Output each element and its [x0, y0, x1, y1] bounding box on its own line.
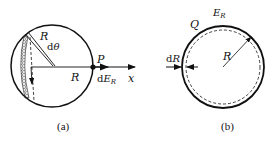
- label-dtheta: dθ: [47, 41, 59, 52]
- diagram-canvas: R dθ R P dER x (a) Q ER dR R (b): [0, 0, 273, 146]
- caption-b: (b): [221, 120, 234, 133]
- label-x-axis: x: [128, 72, 135, 85]
- label-charge-q: Q: [190, 18, 199, 31]
- label-point-p: P: [96, 53, 105, 66]
- label-dE: dER: [97, 73, 117, 86]
- dashed-chord: [30, 37, 34, 101]
- label-radius-b: R: [222, 50, 231, 63]
- label-dR: dR: [166, 53, 180, 64]
- label-field-er: ER: [212, 7, 226, 20]
- figure-a: R dθ R P dER x (a): [11, 25, 135, 133]
- figure-b: Q ER dR R (b): [166, 7, 264, 133]
- caption-a: (a): [57, 120, 70, 133]
- point-p: [90, 64, 95, 69]
- label-radius-axis: R: [70, 71, 79, 84]
- charged-ring-strip: [21, 36, 29, 98]
